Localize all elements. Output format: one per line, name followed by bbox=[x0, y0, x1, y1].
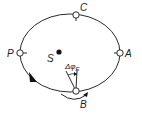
label-p: P bbox=[7, 48, 14, 59]
point-c bbox=[73, 12, 79, 21]
angle-label-main: Δφ bbox=[64, 62, 76, 71]
angle-label: ΔφE bbox=[64, 62, 81, 72]
point-p bbox=[17, 50, 27, 56]
label-a: A bbox=[124, 48, 132, 59]
point-b bbox=[73, 88, 79, 94]
sun-dot bbox=[56, 49, 61, 54]
point-a bbox=[114, 50, 123, 56]
label-s: S bbox=[47, 53, 54, 64]
angle-label-sub: E bbox=[76, 66, 81, 72]
label-c: C bbox=[80, 2, 88, 13]
orbit-direction-arrow-icon bbox=[29, 72, 37, 82]
label-b: B bbox=[80, 99, 87, 110]
orbit-diagram: C P A S ΔφE B bbox=[0, 0, 142, 114]
